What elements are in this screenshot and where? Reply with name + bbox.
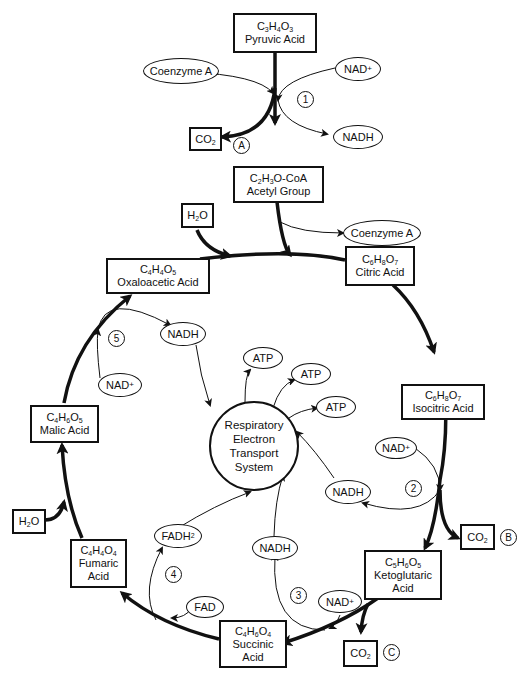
arrow-to-co2-b <box>440 490 458 538</box>
formula: C4H6O4 <box>235 625 271 638</box>
oval-atp-3: ATP <box>316 396 356 418</box>
formula: C4H6O5 <box>46 411 82 424</box>
compound-ketoglutaric-acid: C5H6O5 KetoglutaricAcid <box>364 550 442 600</box>
arrow-nad-5 <box>97 330 100 378</box>
arrow-ets-atp-3 <box>289 408 317 418</box>
arrow-nadh-2 <box>363 490 440 509</box>
arrow-h2o-top <box>197 230 230 256</box>
compound-pyruvic-acid: C3H4O3 Pyruvic Acid <box>233 13 317 53</box>
oval-nad-2: NAD+ <box>375 437 417 459</box>
compound-malic-acid: C4H6O5 Malic Acid <box>30 405 99 443</box>
oval-fadh2: FADH2 <box>154 524 202 548</box>
oval-atp-1: ATP <box>243 347 283 369</box>
step-3: 3 <box>290 587 307 604</box>
oval-coenzyme-a-out: Coenzyme A <box>343 220 421 246</box>
label-a: A <box>233 137 250 154</box>
arrow-nadh5-to-ets <box>196 345 210 405</box>
arrow-to-co2-a <box>222 88 275 137</box>
formula: C6H8O7 <box>362 253 398 266</box>
compound-fumaric-acid: C4H4O4 FumaricAcid <box>70 539 127 588</box>
arrow-ets-atp-1 <box>245 370 250 402</box>
co2-box-c: CO2 <box>343 640 378 667</box>
arrow-h2o-left <box>45 502 64 520</box>
arrow-acetyl-to-cycle <box>277 202 290 255</box>
compound-oxaloacetic-acid: C4H4O5 Oxaloacetic Acid <box>106 258 210 294</box>
cycle-fumaric-to-malic <box>62 445 82 538</box>
oval-nadh-5: NADH <box>160 322 206 346</box>
label-b: B <box>500 529 517 546</box>
step-5: 5 <box>108 330 125 347</box>
oval-nad-1: NAD+ <box>335 57 381 81</box>
arrow-nadh-5 <box>98 309 170 330</box>
cycle-citric-to-isocitric <box>393 285 434 352</box>
compound-name: Citric Acid <box>356 266 405 279</box>
respiratory-electron-transport-system: Respiratory Electron Transport System <box>209 401 299 491</box>
compound-name: Malic Acid <box>40 424 90 437</box>
step-1: 1 <box>297 91 314 108</box>
step-2: 2 <box>405 480 422 497</box>
oval-nad-3: NAD+ <box>318 590 362 613</box>
compound-succinic-acid: C4H6O4 SuccinicAcid <box>219 620 287 668</box>
arrow-fadh2-to-ets <box>178 492 250 528</box>
compound-name: KetoglutaricAcid <box>374 569 432 595</box>
formula: C5H6O5 <box>385 556 421 569</box>
oval-fad: FAD <box>186 596 224 618</box>
arrow-ets-atp-2 <box>273 380 294 408</box>
compound-name: Oxaloacetic Acid <box>117 276 198 289</box>
h2o-box-top: H2O <box>181 203 214 228</box>
formula: C4H4O5 <box>140 263 176 276</box>
oval-atp-2: ATP <box>291 363 331 385</box>
formula: C4H4O4 <box>80 544 116 557</box>
compound-acetyl-group: C2H3O-CoA Acetyl Group <box>233 166 324 203</box>
oval-nadh-3: NADH <box>252 536 298 560</box>
compound-name: Pyruvic Acid <box>245 33 305 46</box>
step-4: 4 <box>165 566 182 583</box>
formula: C3H4O3 <box>257 20 293 33</box>
h2o-box-left: H2O <box>12 509 46 534</box>
label-c: C <box>383 644 400 661</box>
co2-box-b: CO2 <box>460 524 495 550</box>
compound-isocitric-acid: C6H8O7 Isocitric Acid <box>401 384 485 420</box>
compound-name: SuccinicAcid <box>233 638 274 664</box>
oval-nadh-1: NADH <box>333 125 383 149</box>
compound-name: Acetyl Group <box>247 185 311 198</box>
compound-name: FumaricAcid <box>79 557 119 583</box>
formula: C2H3O-CoA <box>250 172 307 185</box>
arrow-fadh2 <box>149 548 162 620</box>
arrow-coenzyme-a-out <box>280 222 343 233</box>
co2-box-a: CO2 <box>189 127 222 151</box>
arrow-nadh2-to-ets <box>297 432 334 478</box>
oval-nad-5: NAD+ <box>98 373 142 397</box>
oval-nadh-2: NADH <box>325 480 371 504</box>
formula: C6H8O7 <box>425 389 461 402</box>
compound-citric-acid: C6H8O7 Citric Acid <box>345 246 415 286</box>
compound-name: Isocitric Acid <box>412 402 473 415</box>
oval-coenzyme-a-in: Coenzyme A <box>143 58 219 84</box>
